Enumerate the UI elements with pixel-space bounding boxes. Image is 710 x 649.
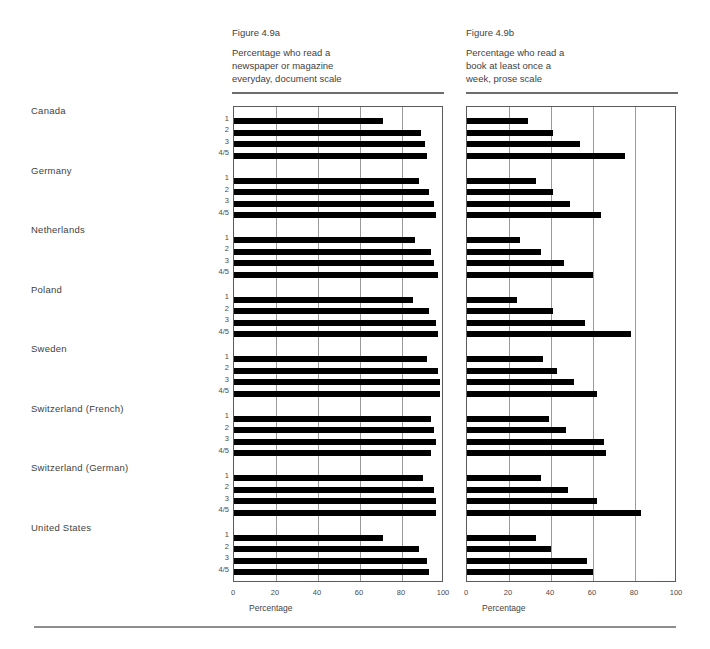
bar-4.9b-switzerland-german--level-4-5 xyxy=(467,510,641,516)
x-axis-title-4.9a: Percentage xyxy=(249,603,292,613)
level-label-poland-3: 3 xyxy=(207,315,229,324)
bar-4.9b-united-states-level-1 xyxy=(467,535,536,541)
plot-area-4.9b xyxy=(466,106,676,582)
bar-4.9a-poland-level-3 xyxy=(234,320,436,326)
bar-4.9a-switzerland-french--level-2 xyxy=(234,427,434,433)
bar-4.9a-switzerland-french--level-1 xyxy=(234,416,431,422)
bar-4.9a-sweden-level-4-5 xyxy=(234,391,440,397)
level-label-germany-4-5: 4/5 xyxy=(207,208,229,217)
x-tick-4.9a-80: 80 xyxy=(386,588,416,597)
bar-4.9b-netherlands-level-2 xyxy=(467,249,541,255)
panel-header-4.9a: Figure 4.9aPercentage who read a newspap… xyxy=(232,26,447,86)
bar-4.9a-netherlands-level-3 xyxy=(234,260,434,266)
country-label-sweden: Sweden xyxy=(31,343,67,354)
level-label-sweden-3: 3 xyxy=(207,375,229,384)
bar-4.9b-switzerland-french--level-2 xyxy=(467,427,566,433)
x-tick-4.9b-60: 60 xyxy=(577,588,607,597)
bar-4.9a-canada-level-3 xyxy=(234,141,425,147)
bar-4.9a-sweden-level-2 xyxy=(234,368,438,374)
x-axis-title-4.9b: Percentage xyxy=(482,603,525,613)
x-tick-4.9b-0: 0 xyxy=(451,588,481,597)
bar-4.9b-canada-level-1 xyxy=(467,118,528,124)
level-label-sweden-4-5: 4/5 xyxy=(207,386,229,395)
level-label-united-states-4-5: 4/5 xyxy=(207,565,229,574)
bar-4.9b-poland-level-1 xyxy=(467,297,517,303)
bar-4.9a-sweden-level-3 xyxy=(234,379,440,385)
bar-4.9a-poland-level-2 xyxy=(234,308,429,314)
level-label-poland-2: 2 xyxy=(207,304,229,313)
country-label-netherlands: Netherlands xyxy=(31,224,85,235)
bar-4.9b-united-states-level-4-5 xyxy=(467,569,593,575)
level-label-poland-4-5: 4/5 xyxy=(207,327,229,336)
panel-header-4.9b: Figure 4.9bPercentage who read a book at… xyxy=(466,26,681,86)
level-label-netherlands-2: 2 xyxy=(207,244,229,253)
country-label-switzerland-french-: Switzerland (French) xyxy=(31,403,124,414)
bar-4.9b-switzerland-french--level-4-5 xyxy=(467,450,606,456)
bar-4.9b-switzerland-german--level-1 xyxy=(467,475,541,481)
level-label-netherlands-3: 3 xyxy=(207,256,229,265)
level-label-switzerland-french--1: 1 xyxy=(207,411,229,420)
bar-4.9a-switzerland-german--level-4-5 xyxy=(234,510,436,516)
level-label-switzerland-german--2: 2 xyxy=(207,482,229,491)
plot-area-4.9a xyxy=(233,106,443,582)
bar-4.9b-switzerland-french--level-3 xyxy=(467,439,604,445)
x-tick-4.9a-0: 0 xyxy=(218,588,248,597)
bottom-divider-rule xyxy=(34,626,676,628)
bar-4.9a-switzerland-german--level-3 xyxy=(234,498,436,504)
level-label-switzerland-french--4-5: 4/5 xyxy=(207,446,229,455)
bar-4.9b-canada-level-2 xyxy=(467,130,553,136)
bar-4.9a-germany-level-2 xyxy=(234,189,429,195)
level-label-sweden-1: 1 xyxy=(207,352,229,361)
x-tick-4.9a-20: 20 xyxy=(260,588,290,597)
country-label-canada: Canada xyxy=(31,105,66,116)
bar-4.9a-netherlands-level-2 xyxy=(234,249,431,255)
country-label-united-states: United States xyxy=(31,522,91,533)
bar-4.9a-canada-level-1 xyxy=(234,118,383,124)
bar-4.9a-switzerland-german--level-2 xyxy=(234,487,434,493)
bar-4.9b-netherlands-level-3 xyxy=(467,260,564,266)
bar-4.9a-netherlands-level-4-5 xyxy=(234,272,438,278)
x-tick-4.9b-20: 20 xyxy=(493,588,523,597)
country-label-poland: Poland xyxy=(31,284,62,295)
level-label-netherlands-4-5: 4/5 xyxy=(207,267,229,276)
panel-header-rule-4.9a xyxy=(232,92,444,94)
panel-header-rule-4.9b xyxy=(466,92,678,94)
level-label-poland-1: 1 xyxy=(207,292,229,301)
bar-4.9a-poland-level-1 xyxy=(234,297,413,303)
x-tick-4.9b-40: 40 xyxy=(535,588,565,597)
bar-4.9b-canada-level-3 xyxy=(467,141,580,147)
bar-4.9a-poland-level-4-5 xyxy=(234,331,438,337)
x-tick-4.9a-40: 40 xyxy=(302,588,332,597)
level-label-canada-4-5: 4/5 xyxy=(207,148,229,157)
panel-figure-number: Figure 4.9b xyxy=(466,26,681,39)
level-label-canada-1: 1 xyxy=(207,114,229,123)
bar-4.9b-sweden-level-1 xyxy=(467,356,543,362)
bar-4.9b-united-states-level-2 xyxy=(467,546,551,552)
bar-4.9b-switzerland-french--level-1 xyxy=(467,416,549,422)
bar-4.9b-canada-level-4-5 xyxy=(467,153,625,159)
bar-4.9b-switzerland-german--level-3 xyxy=(467,498,597,504)
panel-figure-number: Figure 4.9a xyxy=(232,26,447,39)
figure-root: Figure 4.9aPercentage who read a newspap… xyxy=(0,0,710,649)
level-label-sweden-2: 2 xyxy=(207,363,229,372)
bar-4.9b-germany-level-4-5 xyxy=(467,212,601,218)
bar-4.9b-sweden-level-4-5 xyxy=(467,391,597,397)
bar-4.9a-netherlands-level-1 xyxy=(234,237,415,243)
x-tick-4.9a-60: 60 xyxy=(344,588,374,597)
bar-4.9b-germany-level-3 xyxy=(467,201,570,207)
x-tick-4.9b-100: 100 xyxy=(661,588,691,597)
bar-4.9b-united-states-level-3 xyxy=(467,558,587,564)
bar-4.9a-canada-level-2 xyxy=(234,130,421,136)
level-label-switzerland-german--1: 1 xyxy=(207,471,229,480)
bar-4.9b-poland-level-4-5 xyxy=(467,331,631,337)
level-label-germany-3: 3 xyxy=(207,196,229,205)
country-label-germany: Germany xyxy=(31,165,72,176)
x-tick-4.9b-80: 80 xyxy=(619,588,649,597)
bar-4.9a-germany-level-4-5 xyxy=(234,212,436,218)
bar-4.9b-switzerland-german--level-2 xyxy=(467,487,568,493)
level-label-canada-2: 2 xyxy=(207,125,229,134)
level-label-netherlands-1: 1 xyxy=(207,233,229,242)
bar-4.9a-canada-level-4-5 xyxy=(234,153,427,159)
level-label-united-states-2: 2 xyxy=(207,542,229,551)
bar-4.9b-poland-level-3 xyxy=(467,320,585,326)
